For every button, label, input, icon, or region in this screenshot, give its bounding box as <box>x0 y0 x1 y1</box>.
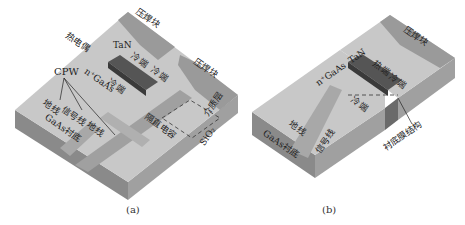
caption-b: (b) <box>322 204 336 215</box>
label-tan: TaN <box>113 41 132 50</box>
caption-a: (a) <box>126 204 140 215</box>
figure-a: 压焊块 热电偶 TaN 冷端 冷端 冷端 压焊块 CPW n⁺GaAs 地线 信… <box>0 0 240 225</box>
figure-a-device-illustration <box>0 0 240 200</box>
label-cpw: CPW <box>54 67 79 77</box>
figure-b-device-illustration <box>230 0 465 200</box>
figure-b: 压焊块 n⁺GaAs TaN 热端 冷端 冷端 地线 信号线 GaAs衬底 衬底… <box>230 0 465 225</box>
